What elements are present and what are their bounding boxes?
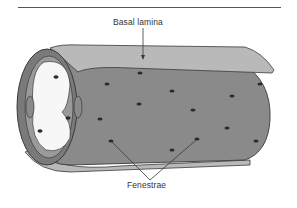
fenestra [98, 117, 103, 120]
fenestra [109, 139, 114, 142]
fenestra [258, 82, 263, 85]
fenestra [225, 126, 230, 129]
nucleus-left [26, 96, 34, 118]
fenestra [66, 116, 71, 120]
fenestra [137, 102, 142, 105]
basal-lamina-upper [50, 45, 274, 73]
fenestra [105, 82, 110, 85]
fenestra [170, 89, 175, 92]
lumen-opening [32, 61, 70, 150]
fenestra [230, 94, 235, 97]
fenestra [54, 75, 59, 79]
capillary-illustration [0, 0, 297, 208]
fenestra [191, 108, 196, 111]
fenestra [170, 148, 175, 151]
nucleus-right [74, 96, 82, 118]
fenestra [254, 139, 259, 142]
fenestra [195, 137, 200, 140]
fenestra [38, 129, 43, 133]
fenestra [138, 71, 143, 74]
